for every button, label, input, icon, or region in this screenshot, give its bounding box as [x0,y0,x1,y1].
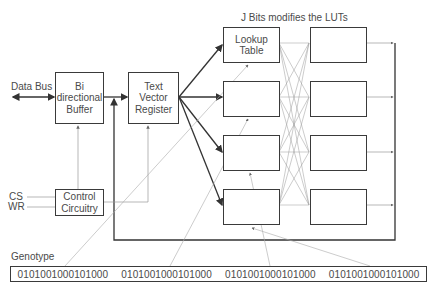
lookup-table-block-3 [223,135,280,171]
wr-signal-label: WR [8,201,25,212]
bidirectional-buffer-block: BidirectionalBuffer [55,72,104,124]
lookup-table-block-1: LookupTable [223,27,280,63]
buffer-line2: directional [57,92,103,103]
data-bus-label: Data Bus [11,81,52,92]
genotype-segment: 0101001000101000 [225,269,316,280]
genotype-segment: 0101001000101000 [121,269,212,280]
lut-line2: Table [240,45,264,56]
connection-lines [0,0,437,294]
genotype-label: Genotype [11,251,54,262]
lookup-table-block-4 [223,189,280,225]
genotype-register: 0101001000101000 0101001000101000 010100… [10,266,427,282]
register-line3: Register [135,104,172,115]
control-line2: Circuitry [61,203,98,214]
lookup-table-block-2 [223,81,280,117]
buffer-line1: Bi [75,81,84,92]
output-block-3 [310,135,367,171]
control-line1: Control [63,191,95,202]
control-circuitry-block: ControlCircuitry [55,189,104,216]
output-block-2 [310,81,367,117]
output-block-1 [310,27,367,63]
genotype-segment: 0101001000101000 [329,269,420,280]
genotype-segment: 0101001000101000 [18,269,109,280]
lut-modification-note: J Bits modifies the LUTs [241,12,348,23]
lut-line1: Lookup [235,34,268,45]
buffer-line3: Buffer [66,104,93,115]
text-vector-register-block: TextVectorRegister [128,72,179,124]
register-line1: Text [144,81,162,92]
output-block-4 [310,189,367,225]
register-line2: Vector [139,92,167,103]
